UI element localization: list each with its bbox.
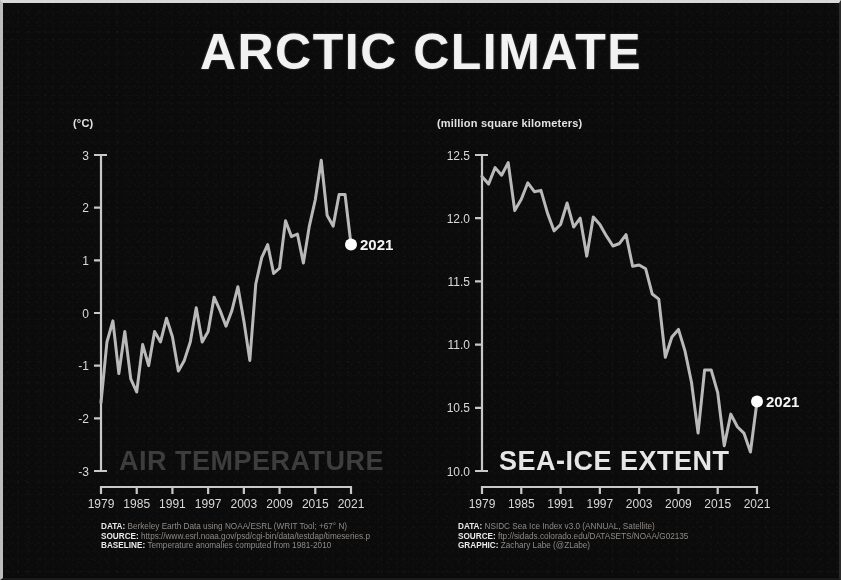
poster-root: ARCTIC CLIMATE (°C) 3210-1-2-31979198519…	[0, 0, 841, 580]
credit-line: SOURCE: https://www.esrl.noaa.gov/psd/cg…	[101, 532, 370, 542]
end-point-label: 2021	[360, 236, 393, 253]
y-axis-tick-label: -2	[78, 412, 89, 426]
credit-key: DATA:	[458, 522, 485, 531]
credits-right: DATA: NSIDC Sea Ice Index v3.0 (ANNUAL, …	[458, 522, 688, 551]
y-axis-line	[475, 155, 488, 471]
x-axis-tick-label: 1979	[88, 497, 115, 511]
data-line	[101, 160, 351, 402]
x-axis-tick-label: 1997	[587, 497, 614, 511]
credits-left: DATA: Berkeley Earth Data using NOAA/ESR…	[101, 522, 370, 551]
page-title: ARCTIC CLIMATE	[3, 23, 839, 81]
y-axis-tick-label: 2	[82, 201, 89, 215]
x-axis-tick-label: 2003	[231, 497, 258, 511]
x-axis-tick-label: 2003	[626, 497, 653, 511]
credit-text: ftp://sidads.colorado.edu/DATASETS/NOAA/…	[498, 532, 688, 541]
credit-line: DATA: NSIDC Sea Ice Index v3.0 (ANNUAL, …	[458, 522, 688, 532]
y-axis-tick-label: 10.5	[447, 401, 471, 415]
chart-title: AIR TEMPERATURE	[119, 446, 384, 476]
sea-ice-extent-chart-svg: 12.512.011.511.010.510.01979198519911997…	[427, 115, 827, 515]
y-axis-tick-label: 3	[82, 149, 89, 163]
end-point-marker	[751, 395, 763, 407]
y-axis-tick-label: -3	[78, 465, 89, 479]
chart-panel-air-temperature: (°C) 3210-1-2-31979198519911997200320092…	[21, 115, 421, 525]
x-axis-tick-label: 2015	[302, 497, 329, 511]
x-axis-line	[101, 487, 351, 494]
y-axis-tick-label: 11.0	[448, 338, 471, 352]
air-temperature-chart-svg: 3210-1-2-3197919851991199720032009201520…	[21, 115, 421, 515]
x-axis-line	[482, 487, 757, 494]
credit-text: NSIDC Sea Ice Index v3.0 (ANNUAL, Satell…	[485, 522, 655, 531]
x-axis-tick-label: 2009	[665, 497, 692, 511]
x-axis-tick-label: 1997	[195, 497, 222, 511]
x-axis-tick-label: 2021	[744, 497, 771, 511]
x-axis-tick-label: 1991	[159, 497, 186, 511]
credit-line: GRAPHIC: Zachary Labe (@ZLabe)	[458, 541, 688, 551]
credit-line: DATA: Berkeley Earth Data using NOAA/ESR…	[101, 522, 370, 532]
end-point-marker	[345, 239, 357, 251]
credit-line: BASELINE: Temperature anomalies computed…	[101, 541, 370, 551]
credit-text: Berkeley Earth Data using NOAA/ESRL (WRI…	[128, 522, 348, 531]
y-axis-tick-label: 10.0	[447, 465, 471, 479]
x-axis-tick-label: 2021	[338, 497, 365, 511]
end-point-label: 2021	[766, 393, 799, 410]
credit-key: GRAPHIC:	[458, 541, 501, 550]
credit-key: DATA:	[101, 522, 128, 531]
credit-key: BASELINE:	[101, 541, 147, 550]
y-axis-tick-label: -1	[78, 359, 89, 373]
chart-title: SEA-ICE EXTENT	[499, 446, 730, 476]
x-axis-tick-label: 1985	[508, 497, 535, 511]
y-axis-tick-label: 1	[82, 254, 89, 268]
credit-text: https://www.esrl.noaa.gov/psd/cgi-bin/da…	[141, 532, 370, 541]
y-axis-tick-label: 12.0	[447, 212, 471, 226]
y-axis-tick-label: 12.5	[447, 149, 471, 163]
y-axis-line	[94, 155, 107, 471]
x-axis-tick-label: 2009	[266, 497, 293, 511]
y-axis-tick-label: 11.5	[448, 275, 471, 289]
x-axis-tick-label: 1979	[469, 497, 496, 511]
x-axis-tick-label: 1991	[547, 497, 574, 511]
x-axis-tick-label: 2015	[704, 497, 731, 511]
credit-text: Temperature anomalies computed from 1981…	[147, 541, 331, 550]
credit-key: SOURCE:	[101, 532, 141, 541]
x-axis-tick-label: 1985	[123, 497, 150, 511]
credit-text: Zachary Labe (@ZLabe)	[501, 541, 590, 550]
credit-line: SOURCE: ftp://sidads.colorado.edu/DATASE…	[458, 532, 688, 542]
data-line	[482, 163, 757, 452]
chart-panel-sea-ice-extent: (million square kilometers) 12.512.011.5…	[427, 115, 827, 525]
credit-key: SOURCE:	[458, 532, 498, 541]
y-axis-tick-label: 0	[82, 307, 89, 321]
